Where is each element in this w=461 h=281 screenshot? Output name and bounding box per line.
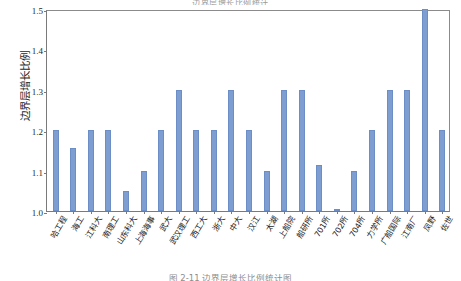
y-tick-label: 1.1 [32, 168, 43, 178]
bar [88, 130, 94, 211]
bar-series [47, 11, 449, 211]
figure-container: 边界层增长比例统计 边界层增长比例 1.01.11.21.31.41.5 哈工程… [0, 0, 461, 281]
bar [404, 90, 410, 211]
bar [264, 171, 270, 211]
bar [105, 130, 111, 211]
top-caption: 边界层增长比例统计 [0, 0, 461, 5]
bar [246, 130, 252, 211]
y-tick-label: 1.4 [32, 46, 43, 56]
bar [281, 90, 287, 211]
bar [141, 171, 147, 211]
bottom-caption: 图 2-11 边界层增长比例统计图 [0, 271, 461, 281]
x-tick-label: 701所 [311, 214, 332, 239]
x-tick-label: 汉江 [245, 214, 263, 233]
bar [369, 130, 375, 211]
bar [211, 130, 217, 211]
x-tick-label: 西工大 [188, 214, 210, 240]
y-tick-label: 1.0 [32, 208, 43, 218]
y-axis-title: 边界层增长比例 [17, 26, 32, 146]
x-tick-label: 江南厂 [399, 214, 421, 240]
bar [158, 130, 164, 211]
bar [316, 165, 322, 211]
bar [351, 171, 357, 211]
x-axis-labels: 哈工程海工江科大南理工山东科大上海海事武大武汉理工西工大浙大中大汉江太湖上船院船… [46, 214, 450, 266]
y-tick-label: 1.3 [32, 87, 43, 97]
x-tick-label: 哈工程 [47, 214, 69, 240]
bar [53, 130, 59, 211]
bar [176, 90, 182, 211]
bar [228, 90, 234, 211]
x-tick-label: 浙大 [210, 214, 228, 233]
y-tick-label: 1.5 [32, 6, 43, 16]
x-tick-label: 704所 [346, 214, 367, 239]
bar [123, 191, 129, 211]
bar [387, 90, 393, 211]
x-tick-label: 江科大 [83, 214, 105, 240]
bar [193, 130, 199, 211]
bar [422, 9, 428, 211]
bar [70, 148, 76, 211]
x-tick-label: 船研所 [293, 214, 315, 240]
x-tick-label: 702所 [329, 214, 350, 239]
x-tick-label: 中大 [227, 214, 245, 233]
bar [299, 90, 305, 211]
x-tick-label: 佐世 [438, 214, 456, 233]
x-tick-label: 凤野 [420, 214, 438, 233]
plot-area: 1.01.11.21.31.41.5 [46, 10, 450, 212]
bar [439, 130, 445, 211]
y-tick-label: 1.2 [32, 127, 43, 137]
